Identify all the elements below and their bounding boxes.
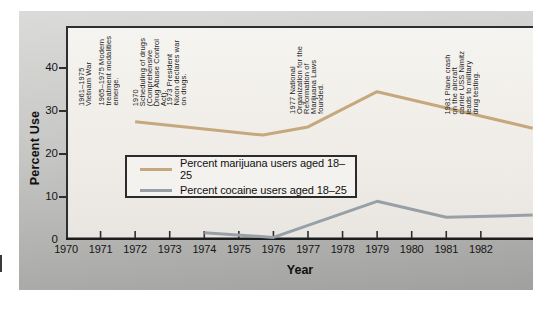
event-annotation-3: 1970 Scheduling of drugs (Comprehensive …	[132, 38, 167, 106]
event-annotation-2: 1965–1975 Modern treatment modalities em…	[98, 36, 119, 106]
chart-panel: Percent Use 010203040 Percent marijuana …	[19, 11, 533, 290]
legend-row-cocaine: Percent cocaine users aged 18–25	[127, 184, 355, 196]
cocaine-line-swatch	[140, 189, 172, 192]
page-edge-mark	[0, 255, 2, 272]
y-tick-40	[59, 67, 66, 69]
plot-area: Percent marijuana users aged 18–25 Perce…	[66, 26, 533, 240]
legend: Percent marijuana users aged 18–25 Perce…	[125, 155, 357, 198]
y-tick-30	[59, 110, 66, 112]
marijuana-line-swatch	[140, 168, 172, 171]
event-annotation-1: 1961–1975 Vietnam War	[78, 62, 92, 106]
y-tick-label-20: 20	[25, 147, 58, 159]
legend-label-marijuana: Percent marijuana users aged 18–25	[180, 157, 355, 181]
y-tick-20	[59, 153, 66, 155]
event-annotation-5: 1977 National Organization for the Refor…	[289, 46, 324, 114]
event-annotation-4: 1973 President Nixon declares war on dru…	[166, 40, 187, 106]
cocaine-series-line	[204, 201, 532, 237]
y-tick-label-40: 40	[25, 61, 58, 73]
y-tick-label-10: 10	[25, 190, 58, 202]
legend-row-marijuana: Percent marijuana users aged 18–25	[127, 157, 355, 181]
x-tick-label-1982: 1982	[461, 243, 501, 255]
x-axis-title: Year	[270, 263, 330, 277]
y-tick-10	[59, 196, 66, 198]
y-tick-label-30: 30	[25, 104, 58, 116]
event-annotation-6: 1981 Plane crash on the aircraft carrier…	[444, 51, 479, 114]
legend-label-cocaine: Percent cocaine users aged 18–25	[180, 184, 347, 196]
